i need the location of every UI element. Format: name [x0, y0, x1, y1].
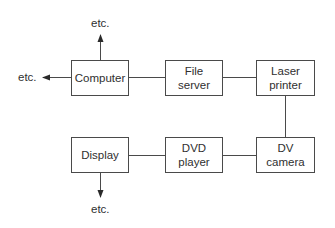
node-label: DVD: [178, 141, 209, 155]
node-laser-printer: Laserprinter: [256, 60, 315, 96]
connectors: [0, 0, 335, 228]
node-label: camera: [266, 155, 304, 169]
etc-label-left: etc.: [18, 71, 37, 83]
node-label: server: [178, 78, 210, 92]
node-label: Display: [81, 148, 119, 162]
node-label: printer: [269, 78, 302, 92]
etc-label-bottom: etc.: [91, 203, 110, 215]
node-display: Display: [71, 137, 129, 173]
node-dv-camera: DVcamera: [256, 137, 315, 173]
node-label: Computer: [75, 71, 126, 85]
node-label: player: [178, 155, 209, 169]
node-label: File: [178, 64, 210, 78]
node-file-server: Fileserver: [165, 60, 223, 96]
node-label: Laser: [269, 64, 302, 78]
node-dvd-player: DVDplayer: [165, 137, 223, 173]
node-computer: Computer: [71, 60, 129, 96]
node-label: DV: [266, 141, 304, 155]
etc-label-top: etc.: [91, 17, 110, 29]
